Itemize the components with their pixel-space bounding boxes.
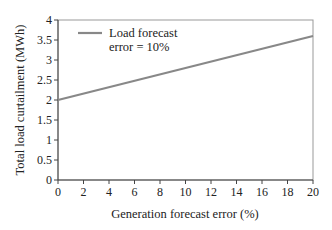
y-tick-label: 2.5	[37, 73, 52, 87]
y-tick-label: 0	[46, 173, 52, 187]
y-axis-label: Total load curtailment (MWh)	[13, 25, 27, 176]
y-tick-label: 1.5	[37, 113, 52, 127]
y-tick-label: 4	[46, 13, 52, 27]
x-tick-label: 4	[106, 185, 112, 199]
x-tick-label: 16	[256, 185, 268, 199]
x-tick-label: 0	[55, 185, 61, 199]
plot-border	[58, 20, 313, 180]
x-tick-label: 14	[231, 185, 243, 199]
line-chart: 00.511.522.533.54 02468101214161820 Load…	[0, 0, 332, 230]
series-line	[58, 36, 313, 100]
y-tick-label: 0.5	[37, 153, 52, 167]
x-tick-label: 18	[282, 185, 294, 199]
x-tick-label: 8	[157, 185, 163, 199]
x-tick-label: 20	[307, 185, 319, 199]
legend: Load forecasterror = 10%	[78, 26, 178, 54]
y-tick-label: 2	[46, 93, 52, 107]
x-axis-label: Generation forecast error (%)	[111, 207, 259, 221]
x-tick-label: 2	[81, 185, 87, 199]
y-tick-label: 3.5	[37, 33, 52, 47]
plot-frame	[58, 20, 313, 180]
legend-label: Load forecast	[109, 26, 178, 40]
y-tick-label: 1	[46, 133, 52, 147]
y-axis-ticks: 00.511.522.533.54	[37, 13, 58, 187]
y-tick-label: 3	[46, 53, 52, 67]
legend-label: error = 10%	[109, 40, 170, 54]
x-tick-label: 12	[205, 185, 217, 199]
x-tick-label: 6	[132, 185, 138, 199]
x-axis-ticks: 02468101214161820	[55, 180, 319, 199]
x-tick-label: 10	[180, 185, 192, 199]
data-series	[58, 36, 313, 100]
